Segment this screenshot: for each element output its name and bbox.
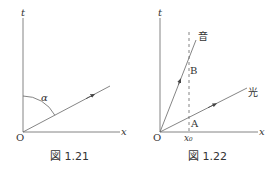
- diagram-canvas: t x O α 図 1.21 t x O 音 光 B A x₀ 図 1.22: [0, 0, 280, 173]
- point-a-label: A: [190, 118, 199, 129]
- origin-label: O: [153, 132, 161, 143]
- t-axis-label: t: [21, 7, 26, 18]
- figure-caption: 図 1.22: [188, 150, 227, 163]
- light-worldline: [160, 88, 247, 132]
- arrow-icon: [208, 104, 215, 108]
- angle-label: α: [41, 92, 48, 103]
- worldline: [23, 86, 110, 132]
- x-axis-label: x: [121, 126, 127, 137]
- point-b-label: B: [190, 65, 197, 76]
- light-label: 光: [248, 86, 258, 98]
- figure-caption: 図 1.21: [50, 150, 89, 163]
- angle-arc: [23, 96, 55, 115]
- t-axis-label: t: [158, 7, 163, 18]
- sound-label: 音: [198, 30, 208, 42]
- x0-label: x₀: [184, 133, 193, 143]
- arrow-icon: [86, 95, 93, 99]
- origin-label: O: [16, 132, 24, 143]
- figure-1-22: t x O 音 光 B A x₀ 図 1.22: [153, 7, 265, 163]
- x-axis-label: x: [259, 126, 265, 137]
- figure-1-21: t x O α 図 1.21: [16, 7, 127, 163]
